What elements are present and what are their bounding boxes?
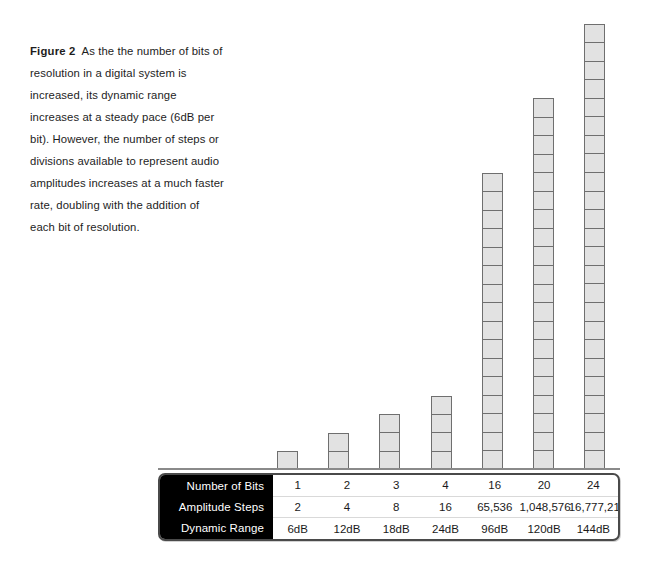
bar-16-bits [482, 172, 503, 470]
bar-segment [482, 358, 503, 377]
bar-segment [482, 247, 503, 266]
bar-segment [533, 284, 554, 303]
bar-segment [533, 191, 554, 210]
bar-segment [533, 117, 554, 136]
bar-segment [584, 376, 605, 395]
bar-segment [482, 321, 503, 340]
bar-segment [533, 395, 554, 414]
bar-segment [482, 265, 503, 284]
chart-baseline [158, 468, 620, 470]
bar-24-bits [584, 24, 605, 470]
bar-segment [584, 79, 605, 98]
bar-segment [482, 191, 503, 210]
bar-segment [482, 173, 503, 192]
bar-segment [584, 228, 605, 247]
bar-segment [584, 321, 605, 340]
table-cell: 120dB [519, 518, 568, 539]
bar-segment [584, 172, 605, 191]
table-body: Number of Bits1234162024Amplitude Steps2… [160, 475, 618, 539]
bar-segment [431, 396, 452, 414]
bar-segment [584, 135, 605, 154]
bar-segment [584, 413, 605, 432]
bar-segment [584, 339, 605, 358]
bar-segment [584, 24, 605, 43]
bar-4-bits [431, 396, 452, 470]
table-cell: 96dB [470, 518, 519, 539]
bar-segment [482, 228, 503, 247]
bar-segment [584, 98, 605, 117]
table-row-header: Number of Bits [160, 475, 273, 496]
bar-segment [379, 432, 400, 450]
bar-3-bits [379, 414, 400, 470]
bar-20-bits [533, 98, 554, 470]
bar-segment [584, 395, 605, 414]
table-cell: 2 [273, 496, 322, 518]
bar-segment [533, 98, 554, 117]
table-cell: 24 [569, 475, 618, 496]
bar-segment [482, 432, 503, 451]
table-row-header: Dynamic Range [160, 518, 273, 539]
bar-segment [533, 228, 554, 247]
table-cell: 12dB [322, 518, 371, 539]
bar-segment [584, 283, 605, 302]
table-cell: 8 [372, 496, 421, 518]
bar-segment [533, 432, 554, 451]
table-cell: 18dB [372, 518, 421, 539]
bar-segment [584, 358, 605, 377]
bar-segment [584, 61, 605, 80]
bar-segment [584, 116, 605, 135]
table-row: Number of Bits1234162024 [160, 475, 618, 496]
bar-segment [328, 433, 349, 451]
bar-segment [533, 376, 554, 395]
bar-segment [482, 395, 503, 414]
table-row-header: Amplitude Steps [160, 496, 273, 518]
table-cell: 3 [372, 475, 421, 496]
table-cell: 20 [519, 475, 568, 496]
bar-segment [533, 339, 554, 358]
data-table: Number of Bits1234162024Amplitude Steps2… [160, 475, 618, 539]
bar-segment [584, 153, 605, 172]
table-row: Amplitude Steps2481665,5361,048,57616,77… [160, 496, 618, 518]
bar-segment [584, 209, 605, 228]
bar-segment [482, 376, 503, 395]
bar-segment [482, 339, 503, 358]
bar-segment [533, 413, 554, 432]
table-cell: 65,536 [470, 496, 519, 518]
bar-chart [0, 0, 645, 470]
bar-segment [533, 321, 554, 340]
table-cell: 16 [470, 475, 519, 496]
bar-segment [431, 432, 452, 450]
bar-segment [533, 135, 554, 154]
bar-segment [533, 172, 554, 191]
table-cell: 24dB [421, 518, 470, 539]
bar-segment [379, 414, 400, 432]
bar-segment [482, 284, 503, 303]
bar-segment [533, 246, 554, 265]
bar-segment [533, 209, 554, 228]
table-cell: 16,777,216 [569, 496, 618, 518]
bar-segment [431, 414, 452, 432]
table-cell: 4 [322, 496, 371, 518]
bar-segment [584, 42, 605, 61]
data-table-container: Number of Bits1234162024Amplitude Steps2… [158, 473, 620, 541]
bar-segment [533, 358, 554, 377]
bar-segment [584, 432, 605, 451]
bar-segment [482, 210, 503, 229]
bar-segment [584, 246, 605, 265]
table-row: Dynamic Range6dB12dB18dB24dB96dB120dB144… [160, 518, 618, 539]
bar-segment [482, 413, 503, 432]
bar-segment [533, 154, 554, 173]
bar-2-bits [328, 433, 349, 470]
table-cell: 4 [421, 475, 470, 496]
bar-segment [533, 265, 554, 284]
bar-segment [533, 302, 554, 321]
table-cell: 16 [421, 496, 470, 518]
table-cell: 6dB [273, 518, 322, 539]
table-cell: 2 [322, 475, 371, 496]
table-cell: 144dB [569, 518, 618, 539]
bar-segment [482, 302, 503, 321]
bar-segment [584, 191, 605, 210]
table-cell: 1 [273, 475, 322, 496]
table-cell: 1,048,576 [519, 496, 568, 518]
bar-segment [584, 265, 605, 284]
